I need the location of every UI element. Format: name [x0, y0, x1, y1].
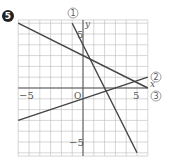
origin-label: O [74, 91, 81, 101]
y-axis-label: y [84, 19, 91, 29]
x-tick-label: −5 [19, 90, 34, 101]
y-tick-label: −5 [69, 137, 84, 148]
x-tick-label: 5 [133, 90, 139, 101]
y-tick-label: 5 [77, 29, 83, 40]
coordinate-plot: 123yxO−555−5 [0, 0, 170, 164]
line-3-label: 3 [153, 92, 158, 101]
axis-labels: 123yxO−555−5 [19, 8, 161, 148]
line-1-label: 1 [70, 9, 75, 18]
x-axis-label: x [150, 79, 155, 89]
